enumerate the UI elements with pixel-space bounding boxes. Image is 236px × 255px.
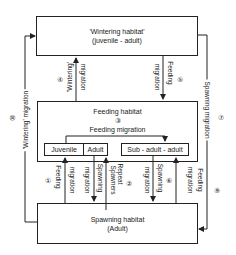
sub-adult-label: Sub - adult - adult (122, 146, 188, 154)
feeding-migration-label: Feeding migration (38, 126, 197, 134)
arrow-5-label1: Feeding (167, 61, 174, 85)
feeding-habitat-number: ③ (38, 117, 197, 125)
feeding-habitat-title: Feeding habitat (38, 108, 197, 116)
arrow-2-number: ② (126, 180, 132, 187)
wintering-habitat-box: 'Wintering habitat' (juvenile - adult) (36, 16, 198, 56)
right-loop-number-9: ⑨ (214, 187, 220, 194)
arrow-4-label2: migration (80, 64, 87, 91)
arrow-1-label2: migration (69, 167, 76, 194)
arrow-1-label1: Feeding (55, 165, 62, 189)
arrow-2-label1: Repeat (117, 164, 124, 185)
arrow-6-number: ⑥ (166, 177, 172, 184)
juvenile-box: Juvenile (44, 143, 84, 156)
spawning-left-label2: migration (84, 167, 91, 194)
juvenile-label: Juvenile (45, 146, 83, 154)
arrow-5-number: ⑤ (177, 76, 183, 83)
left-loop-label: 'Wintering' migration (22, 89, 29, 151)
spawning-left-label1: Spawning (97, 164, 104, 193)
wintering-habitat-title: 'Wintering habitat' (37, 28, 197, 36)
arrow-1-number: ① (45, 177, 51, 184)
spawning-habitat-box: Spawning habitat (Adult) (37, 203, 198, 244)
arrow-6-label2: migration (144, 167, 151, 194)
spawning-habitat-subtitle: (Adult) (38, 225, 197, 233)
adult-label: Adult (84, 146, 107, 154)
arrow-5-label2: migration (154, 64, 161, 91)
adult-box: Adult (83, 143, 108, 156)
spawning-habitat-title: Spawning habitat (38, 216, 197, 224)
right-loop-label: Spawning migration (204, 79, 211, 140)
sub-adult-box: Sub - adult - adult (121, 143, 189, 156)
feeding-right-label1: Feeding (197, 168, 204, 192)
arrow-4-number: ④ (57, 76, 63, 83)
wintering-habitat-subtitle: (juvenile - adult) (37, 37, 197, 45)
arrow-4-label1: 'Wintering' (66, 62, 73, 92)
arrow-2-label2: Spawners (110, 166, 117, 195)
left-loop-number: ⑩ (9, 115, 16, 121)
right-loop-number-7: ⑦ (218, 114, 224, 121)
arrow-6-label1: Spawning (157, 164, 164, 193)
feeding-right-label2: migration (187, 167, 194, 194)
